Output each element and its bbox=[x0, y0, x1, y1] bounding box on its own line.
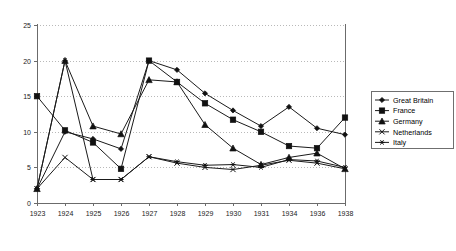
axis-ticks bbox=[34, 26, 346, 207]
data-point-marker bbox=[34, 94, 39, 99]
data-point-marker bbox=[146, 58, 151, 63]
data-point-marker bbox=[118, 146, 123, 151]
legend-label: France bbox=[393, 106, 415, 115]
x-tick-label: 1934 bbox=[282, 210, 298, 217]
y-tick-label: 10 bbox=[23, 129, 31, 136]
x-tick-label: 1926 bbox=[114, 210, 130, 217]
series-italy bbox=[34, 58, 347, 191]
data-point-marker bbox=[342, 115, 347, 120]
data-point-marker bbox=[202, 101, 207, 106]
legend-label: Great Britain bbox=[393, 96, 433, 105]
x-axis-tick-labels: 1923192419251926192719281929193019311934… bbox=[30, 210, 354, 217]
chart-legend: Great BritainFranceGermanyNetherlandsIta… bbox=[372, 92, 454, 149]
x-tick-label: 1928 bbox=[170, 210, 186, 217]
x-tick-label: 1929 bbox=[198, 210, 214, 217]
data-point-marker bbox=[62, 128, 67, 133]
series-great-britain bbox=[34, 58, 347, 191]
y-tick-label: 25 bbox=[23, 22, 31, 29]
series-line bbox=[37, 157, 345, 189]
y-tick-label: 0 bbox=[27, 200, 31, 207]
grid-lines bbox=[37, 26, 345, 168]
x-tick-label: 1927 bbox=[142, 210, 158, 217]
series-france bbox=[34, 58, 347, 172]
data-series-group bbox=[34, 57, 348, 191]
x-tick-label: 1938 bbox=[338, 210, 354, 217]
data-point-marker bbox=[62, 155, 67, 160]
data-point-marker bbox=[258, 129, 263, 134]
legend-label: Italy bbox=[393, 138, 407, 147]
line-chart: 0510152025 19231924192519261927192819291… bbox=[0, 0, 456, 251]
legend-marker-icon bbox=[379, 108, 384, 113]
chart-canvas: 0510152025 19231924192519261927192819291… bbox=[0, 0, 456, 251]
data-point-marker bbox=[90, 123, 96, 129]
x-tick-label: 1924 bbox=[58, 210, 74, 217]
data-point-marker bbox=[118, 166, 123, 171]
y-axis-tick-labels: 0510152025 bbox=[23, 22, 31, 207]
y-tick-label: 15 bbox=[23, 93, 31, 100]
series-line bbox=[37, 61, 345, 189]
y-tick-label: 5 bbox=[27, 164, 31, 171]
chart-axes bbox=[38, 24, 346, 204]
series-germany bbox=[34, 57, 348, 191]
x-tick-label: 1930 bbox=[226, 210, 242, 217]
series-line bbox=[37, 61, 345, 189]
x-tick-label: 1936 bbox=[310, 210, 326, 217]
y-tick-label: 20 bbox=[23, 58, 31, 65]
legend-label: Germany bbox=[393, 117, 423, 126]
legend-label: Netherlands bbox=[393, 128, 432, 137]
data-point-marker bbox=[202, 121, 208, 127]
x-tick-label: 1931 bbox=[254, 210, 270, 217]
series-line bbox=[37, 61, 345, 189]
data-point-marker bbox=[230, 108, 235, 113]
data-point-marker bbox=[286, 143, 291, 148]
x-tick-label: 1925 bbox=[86, 210, 102, 217]
x-tick-label: 1923 bbox=[30, 210, 46, 217]
data-point-marker bbox=[230, 117, 235, 122]
data-point-marker bbox=[90, 140, 95, 145]
data-point-marker bbox=[230, 162, 235, 166]
